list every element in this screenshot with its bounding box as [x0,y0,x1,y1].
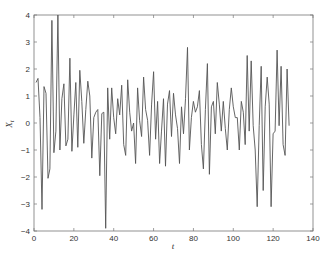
y-axis-label-subscript: t [8,119,16,122]
x-tick-label: 60 [149,234,158,243]
x-tick-label: 0 [32,234,37,243]
y-tick-label: 1 [26,92,31,101]
y-tick-label: 4 [26,11,31,20]
y-tick-label: −2 [21,173,31,182]
y-tick-label: 2 [26,65,31,74]
y-axis-label: Xt [4,119,16,129]
x-tick-label: 120 [266,234,280,243]
line-chart: −4−3−2−101234 020406080100120140 t Xt [0,0,329,263]
x-axis-ticks: 020406080100120140 [32,15,320,243]
x-tick-label: 20 [69,234,78,243]
y-tick-label: 3 [26,38,31,47]
y-tick-label: −3 [21,200,31,209]
series-line-x-t [36,15,289,228]
x-tick-label: 100 [227,234,241,243]
y-tick-label: −4 [21,227,31,236]
x-tick-label: 140 [306,234,320,243]
x-tick-label: 40 [109,234,118,243]
y-tick-label: 0 [26,119,31,128]
x-tick-label: 80 [189,234,198,243]
y-tick-label: −1 [21,146,31,155]
x-axis-label: t [172,241,175,251]
svg-text:Xt: Xt [4,119,16,129]
